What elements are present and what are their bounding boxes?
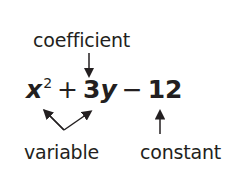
constant-label: constant <box>140 143 221 162</box>
variable-label: variable <box>24 143 99 162</box>
